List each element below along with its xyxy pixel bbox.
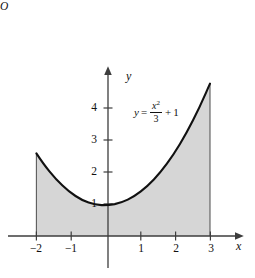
fraction-numerator: x2 [150, 100, 162, 111]
x-axis-label: x [236, 240, 241, 252]
equation-plus: + [165, 106, 171, 118]
y-tick-label-1: 1 [83, 198, 97, 210]
y-tick-label-4: 4 [83, 102, 97, 114]
y-axis-label: y [126, 70, 131, 82]
x-tick-label-2: 2 [167, 243, 185, 255]
x-tick-label-1: 1 [132, 243, 150, 255]
y-tick-label-2: 2 [83, 166, 97, 178]
fraction-denominator: 3 [152, 114, 161, 124]
equation-fraction: x2 3 [150, 100, 162, 124]
shaded-region [36, 84, 210, 236]
x-tick-label--1: −1 [62, 243, 80, 255]
equation-equals: = [141, 106, 147, 118]
equation-lhs: y [134, 106, 139, 118]
plot-canvas [0, 0, 255, 278]
equation-constant: 1 [173, 106, 179, 118]
x-tick-label-3: 3 [202, 243, 220, 255]
y-tick-label-3: 3 [83, 134, 97, 146]
x-tick-label--2: −2 [27, 243, 45, 255]
figure-area-under-curve: y x O 1 2 3 4 −2 −1 1 2 3 y = x2 3 + 1 [0, 0, 255, 278]
equation-annotation: y = x2 3 + 1 [134, 100, 179, 124]
